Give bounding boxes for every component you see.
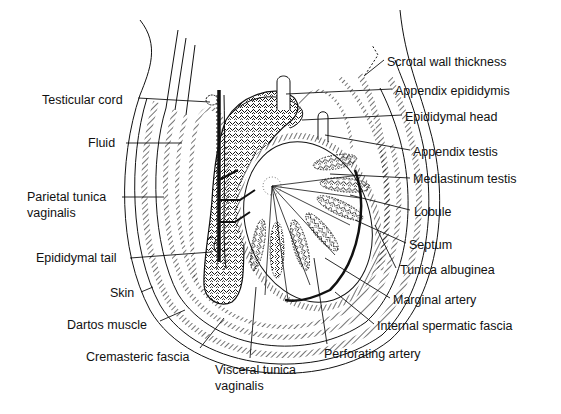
label-epididymal-tail: Epididymal tail xyxy=(36,251,117,265)
label-cremasteric-fascia: Cremasteric fascia xyxy=(86,350,190,364)
label-mediastinum-testis: Mediastinum testis xyxy=(413,172,517,186)
label-visceral-tunica-vaginalis-line1: Visceral tunica xyxy=(215,363,296,377)
label-marginal-artery: Marginal artery xyxy=(393,293,476,307)
label-internal-spermatic-fascia: Internal spermatic fascia xyxy=(377,319,512,333)
label-visceral-tunica-vaginalis-line2: vaginalis xyxy=(215,379,264,393)
label-perforating-artery: Perforating artery xyxy=(324,347,421,361)
label-dartos-muscle: Dartos muscle xyxy=(67,318,147,332)
label-appendix-testis: Appendix testis xyxy=(413,145,498,159)
label-parietal-tunica-vaginalis-line1: Parietal tunica xyxy=(27,190,106,204)
label-epididymal-head: Epididymal head xyxy=(405,110,497,124)
label-appendix-epididymis: Appendix epididymis xyxy=(395,84,510,98)
label-lobule: Lobule xyxy=(414,205,452,219)
label-tunica-albuginea: Tunica albuginea xyxy=(400,263,495,277)
label-septum: Septum xyxy=(409,238,452,252)
label-fluid: Fluid xyxy=(88,136,115,150)
label-testicular-cord: Testicular cord xyxy=(42,93,123,107)
label-scrotal-wall-thickness: Scrotal wall thickness xyxy=(387,55,507,69)
label-skin: Skin xyxy=(110,286,134,300)
label-parietal-tunica-vaginalis-line2: vaginalis xyxy=(27,206,76,220)
